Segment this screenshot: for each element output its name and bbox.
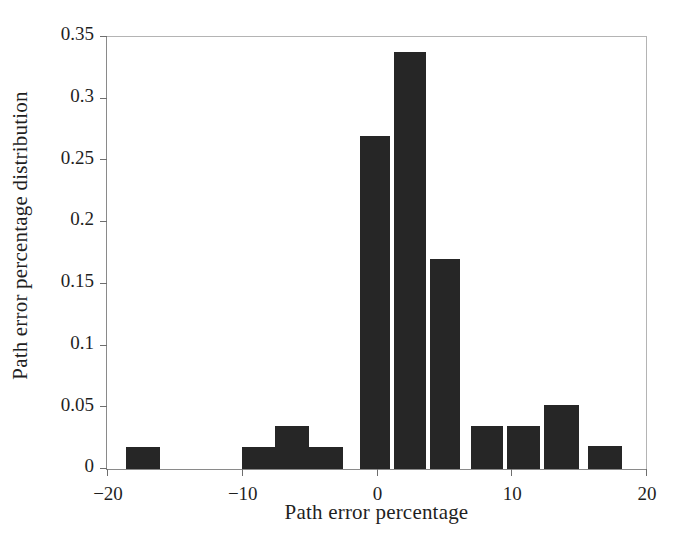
y-axis-tick-label: 0	[85, 455, 95, 477]
y-axis-tick: 0.05	[100, 406, 107, 407]
histogram-bar	[126, 447, 160, 469]
y-axis-tick-label: 0.2	[70, 208, 94, 230]
histogram-bar	[471, 426, 503, 469]
bar-series	[107, 37, 646, 469]
histogram-bar	[309, 447, 343, 469]
x-axis-tick: −20	[107, 469, 108, 476]
histogram-bar	[360, 136, 390, 469]
x-axis-tick: 10	[511, 469, 512, 476]
x-axis-tick: −10	[242, 469, 243, 476]
y-axis-tick: 0	[100, 468, 107, 469]
histogram-bar	[507, 426, 539, 469]
histogram-figure: Path error percentage distribution 00.05…	[0, 0, 686, 550]
y-axis-tick: 0.15	[100, 283, 107, 284]
y-axis-tick-label: 0.35	[61, 23, 94, 45]
histogram-bar	[588, 446, 622, 469]
y-axis-tick-label: 0.25	[61, 147, 94, 169]
histogram-bar	[242, 447, 276, 469]
y-axis-tick: 0.35	[100, 36, 107, 37]
y-axis-tick-label: 0.1	[70, 332, 94, 354]
y-axis-label-container: Path error percentage distribution	[0, 0, 40, 470]
x-axis-tick: 20	[646, 469, 647, 476]
y-axis-tick: 0.25	[100, 159, 107, 160]
x-axis-label: Path error percentage	[106, 500, 647, 525]
y-axis-tick: 0.2	[100, 221, 107, 222]
x-axis-tick: 0	[377, 469, 378, 476]
y-axis-tick-label: 0.3	[70, 85, 94, 107]
y-axis-label: Path error percentage distribution	[8, 91, 33, 379]
histogram-bar	[544, 405, 579, 469]
y-axis-tick: 0.3	[100, 98, 107, 99]
histogram-bar	[275, 426, 309, 469]
y-axis-tick-label: 0.05	[61, 394, 94, 416]
y-axis-tick: 0.1	[100, 345, 107, 346]
histogram-bar	[430, 259, 460, 469]
histogram-bar	[394, 52, 426, 469]
plot-area: 00.050.10.150.20.250.30.35 −20−1001020	[106, 36, 647, 470]
y-axis-tick-label: 0.15	[61, 270, 94, 292]
